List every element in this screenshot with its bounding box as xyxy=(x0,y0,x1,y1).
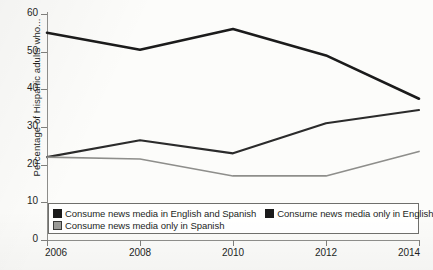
legend-swatch-icon-0 xyxy=(53,209,62,218)
y-tick-label-10: 10 xyxy=(27,195,38,206)
x-tick-label-2010: 2010 xyxy=(222,247,244,258)
y-tick-label-20: 20 xyxy=(27,158,38,169)
legend-label-0: Consume news media in English and Spanis… xyxy=(65,208,256,219)
x-tick-2008 xyxy=(140,240,141,246)
x-tick-label-2012: 2012 xyxy=(315,247,337,258)
x-tick-label-2008: 2008 xyxy=(129,247,151,258)
chart-legend: Consume news media in English and Spanis… xyxy=(48,203,419,234)
legend-swatch-icon-2 xyxy=(53,221,62,230)
series-line-1 xyxy=(47,110,419,157)
y-tick-label-50: 50 xyxy=(27,45,38,56)
x-tick-label-2006: 2006 xyxy=(45,247,67,258)
series-line-2 xyxy=(47,151,419,175)
legend-swatch-icon-1 xyxy=(265,209,274,218)
legend-entry-only-spanish[interactable]: Consume news media only in Spanish xyxy=(53,220,224,231)
y-tick-label-0: 0 xyxy=(32,233,38,244)
legend-entry-only-english[interactable]: Consume news media only in English xyxy=(265,208,433,219)
y-tick-label-40: 40 xyxy=(27,82,38,93)
chart-screenshot: Percentage of Hispanic adults who... 010… xyxy=(0,0,433,270)
x-tick-2010 xyxy=(233,240,234,246)
legend-entry-english-and-spanish[interactable]: Consume news media in English and Spanis… xyxy=(53,208,256,219)
legend-row-1: Consume news media in English and Spanis… xyxy=(53,207,414,219)
legend-label-1: Consume news media only in English xyxy=(277,208,433,219)
series-line-0 xyxy=(47,29,419,99)
y-tick-label-30: 30 xyxy=(27,120,38,131)
x-tick-2014 xyxy=(419,240,420,246)
x-tick-2012 xyxy=(326,240,327,246)
legend-row-2: Consume news media only in Spanish xyxy=(53,219,414,231)
legend-label-2: Consume news media only in Spanish xyxy=(65,220,224,231)
x-tick-label-2014: 2014 xyxy=(398,247,420,258)
x-tick-2006 xyxy=(47,240,48,246)
y-tick-label-60: 60 xyxy=(27,7,38,18)
